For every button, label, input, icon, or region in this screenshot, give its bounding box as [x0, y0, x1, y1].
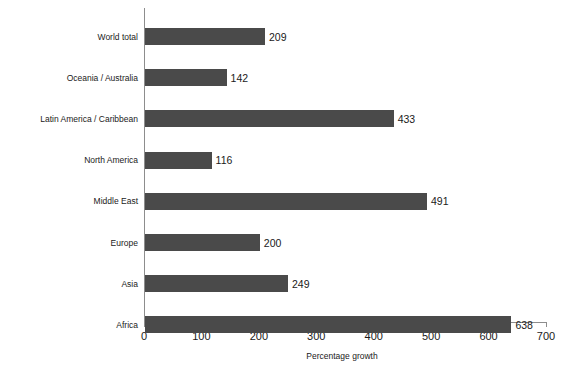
bar-value-label: 116 [216, 154, 233, 166]
x-axis-title-text: Percentage growth [306, 351, 377, 361]
category-label: Oceania / Australia [0, 72, 138, 83]
bar [145, 316, 511, 333]
category-label: Asia [0, 278, 138, 289]
bar-row: North America116 [0, 152, 580, 169]
bar [145, 110, 394, 127]
category-label: World total [0, 31, 138, 42]
bar [145, 152, 212, 169]
x-axis-title: Percentage growth [0, 351, 580, 361]
category-label: Europe [0, 237, 138, 248]
bar [145, 234, 260, 251]
bar-row: Asia249 [0, 275, 580, 292]
bar [145, 275, 288, 292]
category-label: Africa [0, 319, 138, 330]
bar-row: World total209 [0, 28, 580, 45]
bar-chart: 0100200300400500600700 World total209Oce… [0, 0, 580, 388]
bar-row: Middle East491 [0, 193, 580, 210]
bar-value-label: 142 [231, 72, 249, 84]
category-label: Latin America / Caribbean [0, 113, 138, 124]
bar-value-label: 491 [431, 195, 449, 207]
bar [145, 193, 427, 210]
bar-value-label: 200 [264, 237, 282, 249]
bar [145, 69, 227, 86]
bar-row: Latin America / Caribbean433 [0, 110, 580, 127]
category-label: Middle East [0, 196, 138, 207]
bar-row: Africa638 [0, 316, 580, 333]
bar-value-label: 638 [515, 319, 533, 331]
bar-value-label: 433 [398, 113, 416, 125]
bar-row: Europe200 [0, 234, 580, 251]
bar-row: Oceania / Australia142 [0, 69, 580, 86]
bar-value-label: 209 [269, 31, 287, 43]
category-label: North America [0, 155, 138, 166]
bar-value-label: 249 [292, 278, 310, 290]
bar [145, 28, 265, 45]
